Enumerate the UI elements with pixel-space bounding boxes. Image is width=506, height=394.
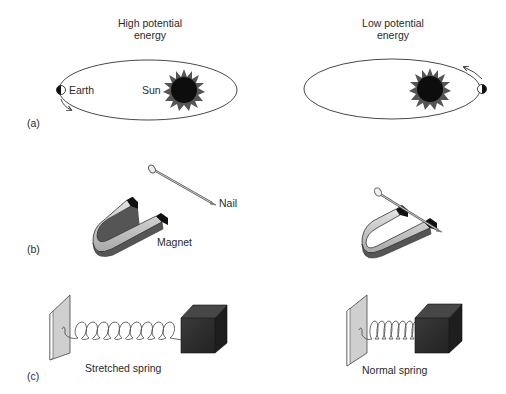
- block-right: [415, 304, 462, 353]
- earth-icon: [478, 85, 487, 94]
- orbit-low-energy: [304, 59, 487, 119]
- magnet-label: Magnet: [157, 236, 192, 248]
- stretched-spring-label: Stretched spring: [85, 362, 161, 374]
- wall-right: [347, 295, 367, 366]
- header-high-potential: High potential energy: [90, 17, 210, 41]
- normal-spring: [362, 321, 421, 340]
- header-line-1: Low potential: [333, 17, 453, 29]
- energy-diagram: [0, 0, 506, 394]
- panel-label-b: (b): [27, 243, 40, 255]
- earth-label: Earth: [69, 84, 94, 96]
- header-line-2: energy: [90, 29, 210, 41]
- header-line-2: energy: [333, 29, 453, 41]
- magnet-right: [362, 205, 437, 258]
- nail-label: Nail: [219, 197, 237, 209]
- header-low-potential: Low potential energy: [333, 17, 453, 41]
- normal-spring-label: Normal spring: [362, 364, 427, 376]
- sun-icon: [409, 68, 451, 110]
- stretched-spring: [65, 322, 182, 340]
- sun-label: Sun: [142, 84, 161, 96]
- orbit-ellipse: [304, 59, 480, 119]
- nail-attached: [373, 187, 442, 232]
- wall-left: [50, 295, 70, 360]
- sun-icon: [163, 69, 205, 111]
- panel-label-c: (c): [27, 370, 39, 382]
- header-line-1: High potential: [90, 17, 210, 29]
- panel-label-a: (a): [27, 117, 40, 129]
- block-left: [181, 305, 227, 353]
- earth-icon: [57, 86, 66, 95]
- nail-far: [147, 164, 216, 205]
